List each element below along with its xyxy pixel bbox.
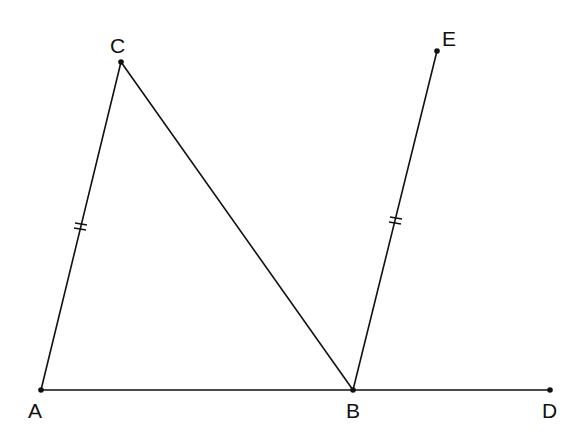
point-c xyxy=(118,59,124,65)
label-d: D xyxy=(542,399,557,422)
point-b xyxy=(350,387,356,393)
point-e xyxy=(434,48,440,54)
segment-cb xyxy=(121,62,353,390)
point-d xyxy=(547,387,553,393)
label-b: B xyxy=(346,399,360,422)
point-a xyxy=(38,387,44,393)
label-c: C xyxy=(110,34,125,57)
segment-ac xyxy=(41,62,121,390)
label-e: E xyxy=(442,27,456,50)
segment-be xyxy=(353,51,437,390)
label-a: A xyxy=(28,399,42,422)
geometry-diagram: A B C D E xyxy=(0,0,582,441)
